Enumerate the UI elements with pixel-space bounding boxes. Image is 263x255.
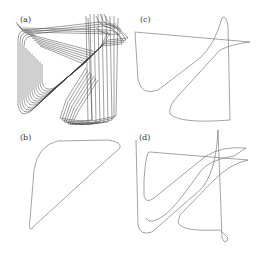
panel-a-plot (16, 14, 128, 125)
panel-b-label: (b) (20, 133, 31, 142)
figure: (a) (b) (c) (d) (0, 0, 263, 255)
panel-c-label: (c) (140, 15, 151, 24)
panel-a-label: (a) (20, 15, 31, 24)
panel-d-label: (d) (139, 133, 150, 142)
panel-d-plot (136, 130, 248, 242)
figure-canvas (0, 0, 263, 255)
panel-c-plot (135, 17, 250, 121)
panel-b-plot (29, 140, 120, 229)
